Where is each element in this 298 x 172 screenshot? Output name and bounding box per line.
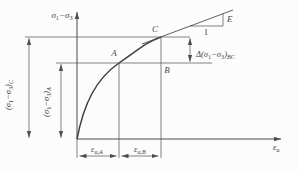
strain-label-b: εa,B xyxy=(134,144,146,155)
y-axis-title: σ1−σ3 xyxy=(51,10,72,21)
ordinate-label-a: (σ1−σ3)A xyxy=(41,87,52,117)
diagram-canvas: σ1−σ3 εa A B C E 1 Δ(σ1−σ3)BC (σ1−σ3)C (… xyxy=(0,0,298,172)
point-label-c: C xyxy=(152,24,159,34)
strain-label-a: εa,A xyxy=(91,144,103,155)
modulus-label-e: E xyxy=(226,14,233,24)
point-label-b: B xyxy=(164,65,170,75)
delta-bc-label: Δ(σ1−σ3)BC xyxy=(195,49,236,60)
ordinate-label-c: (σ1−σ3)C xyxy=(3,79,14,110)
unit-run-label: 1 xyxy=(204,27,209,37)
x-axis-title: εa xyxy=(273,142,280,153)
stress-strain-diagram: σ1−σ3 εa A B C E 1 Δ(σ1−σ3)BC (σ1−σ3)C (… xyxy=(0,0,298,172)
point-label-a: A xyxy=(110,48,117,58)
